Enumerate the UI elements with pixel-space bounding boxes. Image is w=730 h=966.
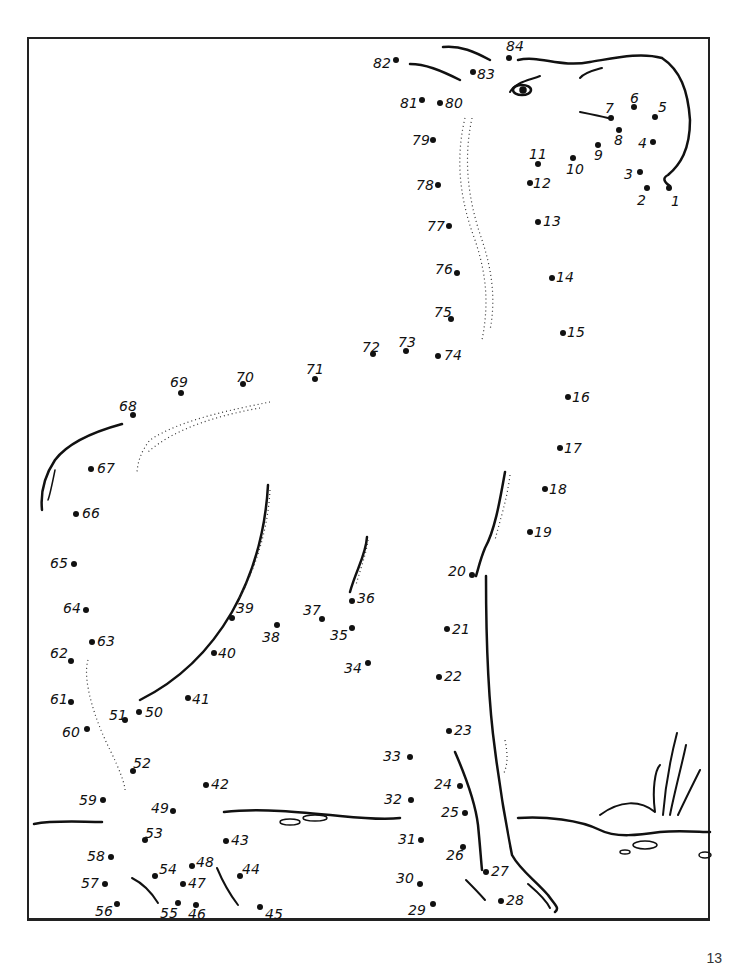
ear-2 (410, 64, 460, 80)
dot-33 (407, 754, 413, 760)
dot-label: 48 (196, 855, 214, 869)
dot-label: 9 (594, 148, 603, 162)
dot-19 (527, 529, 533, 535)
dot-63 (89, 639, 95, 645)
dot-82 (393, 57, 399, 63)
dot-label: 25 (441, 805, 459, 819)
dot-label: 14 (556, 270, 574, 284)
dot-label: 79 (412, 133, 430, 147)
dot-label: 51 (109, 708, 127, 722)
dot-label: 65 (50, 556, 68, 570)
dot-22 (436, 674, 442, 680)
dot-83 (470, 69, 476, 75)
dot-84 (506, 55, 512, 61)
dot-label: 50 (145, 705, 163, 719)
dot-47 (180, 881, 186, 887)
dot-31 (418, 837, 424, 843)
dot-66 (73, 511, 79, 517)
dot-label: 12 (533, 176, 551, 190)
dot-label: 72 (362, 340, 380, 354)
dot-15 (560, 330, 566, 336)
dot-label: 64 (63, 601, 81, 615)
dot-label: 11 (529, 147, 547, 161)
dot-50 (136, 709, 142, 715)
dot-23 (446, 728, 452, 734)
dot-label: 56 (95, 904, 113, 918)
dot-64 (83, 607, 89, 613)
dot-label: 39 (236, 601, 254, 615)
dot-label: 43 (231, 833, 249, 847)
dot-label: 36 (357, 591, 375, 605)
dot-label: 53 (145, 826, 163, 840)
dot-label: 78 (416, 178, 434, 192)
dot-14 (549, 275, 555, 281)
dot-label: 82 (373, 56, 391, 70)
dot-label: 74 (444, 348, 462, 362)
dot-78 (435, 182, 441, 188)
ear-1 (443, 47, 490, 60)
dot-label: 37 (303, 603, 321, 617)
dot-27 (483, 869, 489, 875)
head-outline (518, 55, 690, 186)
dot-label: 34 (344, 661, 362, 675)
dot-label: 67 (97, 461, 115, 475)
dot-label: 5 (658, 100, 667, 114)
dot-label: 2 (637, 193, 646, 207)
front-leg (486, 576, 557, 912)
dot-label: 35 (330, 628, 348, 642)
dot-28 (498, 898, 504, 904)
dot-label: 24 (434, 777, 452, 791)
ground-right (518, 818, 710, 836)
dot-label: 70 (236, 370, 254, 384)
dot-76 (454, 270, 460, 276)
dot-74 (435, 353, 441, 359)
dot-label: 44 (242, 862, 260, 876)
dot-4 (650, 139, 656, 145)
dot-label: 28 (506, 893, 524, 907)
dot-label: 77 (427, 219, 445, 233)
dot-label: 31 (398, 832, 416, 846)
grass (600, 733, 700, 815)
dot-57 (102, 881, 108, 887)
dot-49 (170, 808, 176, 814)
dot-1 (666, 185, 672, 191)
dot-label: 41 (192, 692, 210, 706)
dot-label: 13 (543, 214, 561, 228)
dot-label: 1 (671, 194, 680, 208)
dot-label: 8 (614, 133, 623, 147)
dot-label: 33 (383, 749, 401, 763)
dot-label: 83 (477, 67, 495, 81)
dot-label: 71 (306, 362, 324, 376)
dot-62 (68, 658, 74, 664)
dot-42 (203, 782, 209, 788)
dot-35 (349, 625, 355, 631)
back-leg-curve (140, 485, 268, 700)
dot-13 (535, 219, 541, 225)
dot-label: 30 (396, 871, 414, 885)
dot-label: 63 (97, 634, 115, 648)
dot-label: 22 (444, 669, 462, 683)
dot-40 (211, 650, 217, 656)
dot-20 (469, 572, 475, 578)
dot-39 (229, 615, 235, 621)
dot-58 (108, 854, 114, 860)
dot-label: 23 (454, 723, 472, 737)
dot-label: 62 (50, 646, 68, 660)
dot-61 (68, 699, 74, 705)
dot-label: 54 (159, 862, 177, 876)
dot-65 (71, 561, 77, 567)
dot-label: 20 (448, 564, 466, 578)
dot-79 (430, 137, 436, 143)
ground-left (34, 822, 102, 825)
dot-label: 4 (638, 136, 647, 150)
dot-label: 27 (491, 864, 509, 878)
dot-label: 49 (151, 801, 169, 815)
dot-label: 66 (82, 506, 100, 520)
dot-label: 81 (400, 96, 418, 110)
dot-label: 17 (564, 441, 582, 455)
dot-label: 80 (445, 96, 463, 110)
dot-41 (185, 695, 191, 701)
dot-label: 55 (160, 906, 178, 920)
dot-2 (644, 185, 650, 191)
dot-43 (223, 838, 229, 844)
